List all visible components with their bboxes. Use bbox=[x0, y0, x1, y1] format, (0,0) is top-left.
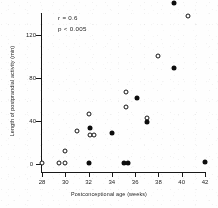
y-axis-title: Length of postprandial activity (min) bbox=[9, 16, 15, 166]
data-point-filled-circle bbox=[126, 160, 131, 165]
data-point-filled-circle bbox=[171, 1, 176, 6]
x-tick-mark bbox=[135, 172, 136, 177]
y-tick-label: 120 bbox=[0, 32, 36, 38]
data-point-open-circle bbox=[123, 105, 128, 110]
x-tick-label: 38 bbox=[155, 179, 162, 185]
x-tick-label: 42 bbox=[202, 179, 209, 185]
data-point-open-circle bbox=[156, 53, 161, 58]
data-point-filled-circle bbox=[144, 120, 149, 125]
data-point-open-circle bbox=[74, 128, 79, 133]
x-tick-mark bbox=[158, 172, 159, 177]
y-tick-mark bbox=[36, 121, 41, 122]
x-tick-label: 30 bbox=[62, 179, 69, 185]
y-tick-label: 40 bbox=[0, 118, 36, 124]
x-tick-label: 40 bbox=[178, 179, 185, 185]
data-point-open-circle bbox=[63, 160, 68, 165]
figure-scatter-plot: 04080120 2830323436384042 Postconception… bbox=[0, 0, 218, 208]
data-point-filled-circle bbox=[135, 95, 140, 100]
data-point-open-circle bbox=[86, 111, 91, 116]
data-point-open-circle bbox=[92, 133, 97, 138]
data-point-open-circle bbox=[40, 160, 45, 165]
y-tick-mark bbox=[36, 78, 41, 79]
x-tick-label: 34 bbox=[109, 179, 116, 185]
x-tick-mark bbox=[65, 172, 66, 177]
x-tick-mark bbox=[182, 172, 183, 177]
data-point-filled-circle bbox=[87, 125, 92, 130]
data-point-filled-circle bbox=[109, 130, 114, 135]
x-axis-title: Postconceptional age (weeks) bbox=[0, 191, 218, 197]
data-point-open-circle bbox=[57, 160, 62, 165]
y-tick-mark bbox=[36, 35, 41, 36]
x-tick-mark bbox=[205, 172, 206, 177]
data-point-filled-circle bbox=[203, 159, 208, 164]
data-point-filled-circle bbox=[86, 160, 91, 165]
x-tick-label: 36 bbox=[132, 179, 139, 185]
x-tick-label: 32 bbox=[85, 179, 92, 185]
x-tick-label: 28 bbox=[39, 179, 46, 185]
plot-area bbox=[42, 14, 205, 164]
x-tick-mark bbox=[89, 172, 90, 177]
y-tick-label: 0 bbox=[0, 161, 33, 167]
x-tick-mark bbox=[112, 172, 113, 177]
data-point-open-circle bbox=[123, 90, 128, 95]
data-point-open-circle bbox=[63, 149, 68, 154]
data-point-open-circle bbox=[185, 14, 190, 19]
x-tick-mark bbox=[42, 172, 43, 177]
y-tick-label: 80 bbox=[0, 75, 36, 81]
data-point-filled-circle bbox=[171, 65, 176, 70]
